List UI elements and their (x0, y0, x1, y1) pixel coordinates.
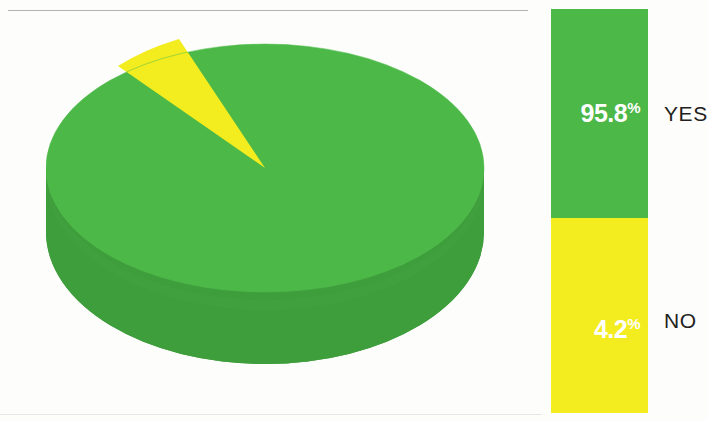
chart-page: 95.8% 4.2% YES NO (0, 0, 708, 421)
legend-label-yes: YES (664, 103, 708, 124)
pie-chart (46, 36, 488, 376)
top-divider-rule (8, 10, 528, 11)
bottom-divider-rule (0, 414, 542, 415)
legend-segment-no[interactable]: 4.2% (551, 218, 648, 413)
percent-symbol-yes: % (627, 99, 640, 116)
legend-stacked-bar: 95.8% 4.2% (551, 9, 648, 413)
percent-symbol-no: % (627, 315, 640, 332)
legend-label-no: NO (664, 310, 697, 331)
pie-chart-svg (46, 36, 488, 376)
legend-value-no: 4.2% (594, 316, 640, 342)
legend-segment-yes[interactable]: 95.8% (551, 9, 648, 218)
legend-value-yes: 95.8% (580, 100, 640, 126)
